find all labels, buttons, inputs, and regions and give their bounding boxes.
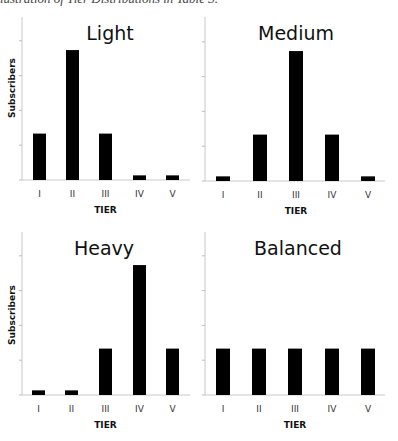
bar-tier-iii — [289, 51, 303, 181]
bar-tier-i — [216, 176, 230, 181]
x-tick-label: V — [169, 404, 176, 414]
chart-title: Heavy — [74, 237, 134, 259]
y-axis-title: Subscribers — [7, 285, 17, 345]
x-tick-label: I — [38, 189, 41, 199]
bar-tier-v — [166, 349, 179, 395]
bar-tier-iv — [325, 135, 339, 181]
x-axis-title: TIER — [94, 205, 117, 215]
x-tick-label: I — [222, 404, 225, 414]
bar-tier-iii — [99, 349, 112, 395]
bar-tier-ii — [65, 390, 78, 395]
x-tick-label: IV — [328, 404, 338, 414]
bar-tier-ii — [66, 50, 79, 180]
bar-tier-v — [166, 175, 179, 180]
bar-tier-iii — [288, 349, 302, 395]
chart-medium: MediumIIIIIIIVVTIER — [202, 17, 385, 216]
x-tick-label: IV — [135, 404, 145, 414]
chart-balanced: BalancedIIIIIIIVVTIER — [202, 232, 385, 430]
x-tick-label: IV — [328, 190, 338, 200]
bar-tier-iv — [325, 349, 339, 395]
bar-tier-iv — [133, 265, 146, 395]
x-tick-label: II — [70, 189, 75, 199]
x-axis-title: TIER — [285, 206, 308, 216]
y-axis-title: Subscribers — [7, 58, 17, 118]
x-tick-label: II — [257, 190, 262, 200]
x-axis-title: TIER — [94, 420, 117, 430]
x-tick-label: I — [37, 404, 40, 414]
bar-tier-i — [216, 349, 230, 395]
x-tick-label: V — [169, 189, 176, 199]
bar-tier-iii — [99, 134, 112, 180]
x-tick-label: II — [256, 404, 261, 414]
bar-tier-v — [361, 176, 375, 181]
bar-tier-i — [33, 134, 46, 180]
x-tick-label: I — [222, 190, 225, 200]
x-tick-label: II — [69, 404, 74, 414]
bar-tier-i — [32, 390, 45, 395]
chart-heavy: HeavyIIIIIIIVVTIERSubscribers — [7, 232, 190, 430]
x-tick-label: III — [292, 190, 300, 200]
chart-grid: LightIIIIIIIVVTIERSubscribers MediumIIII… — [0, 0, 398, 441]
bar-tier-iv — [133, 175, 146, 180]
x-tick-label: IV — [135, 189, 145, 199]
x-tick-label: III — [102, 404, 110, 414]
x-tick-label: V — [365, 404, 372, 414]
bar-tier-ii — [253, 135, 267, 181]
x-tick-label: III — [291, 404, 299, 414]
x-tick-label: III — [102, 189, 110, 199]
x-axis-title: TIER — [284, 420, 307, 430]
chart-title: Light — [86, 22, 133, 44]
x-tick-label: V — [365, 190, 372, 200]
bar-tier-ii — [252, 349, 266, 395]
chart-title: Medium — [258, 22, 334, 44]
chart-light: LightIIIIIIIVVTIERSubscribers — [7, 17, 190, 215]
bar-tier-v — [361, 349, 375, 395]
chart-title: Balanced — [254, 237, 342, 259]
